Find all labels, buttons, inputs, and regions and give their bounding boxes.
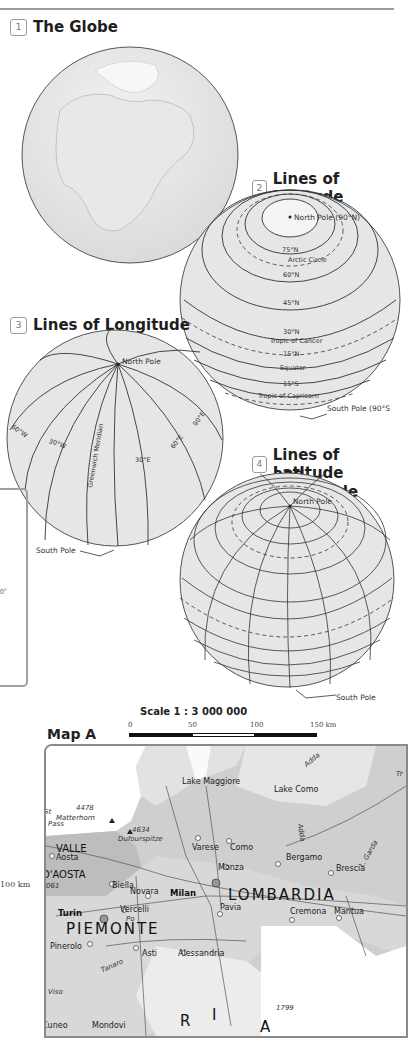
svg-text:R: R xyxy=(180,1012,192,1030)
svg-text:4478: 4478 xyxy=(76,804,94,812)
svg-text:A: A xyxy=(260,1018,272,1036)
svg-text:Pinerolo: Pinerolo xyxy=(50,942,82,951)
svg-text:I: I xyxy=(212,1006,218,1024)
svg-text:Varese: Varese xyxy=(192,843,219,852)
svg-text:Tr: Tr xyxy=(396,770,404,778)
svg-text:Pass: Pass xyxy=(48,820,64,828)
svg-text:Bergamo: Bergamo xyxy=(286,853,322,862)
svg-text:Milan: Milan xyxy=(170,888,196,898)
svg-text:LOMBARDIA: LOMBARDIA xyxy=(228,886,336,904)
svg-text:Dufourspitze: Dufourspitze xyxy=(118,835,163,843)
scale-tick: 50 xyxy=(188,721,197,729)
side-km-text: 100 km xyxy=(0,880,30,889)
svg-text:Novara: Novara xyxy=(130,887,159,896)
svg-text:Viso: Viso xyxy=(48,988,63,996)
svg-text:Lake Maggiore: Lake Maggiore xyxy=(182,777,240,786)
svg-text:Cremona: Cremona xyxy=(290,907,326,916)
svg-text:Asti: Asti xyxy=(142,949,157,958)
svg-text:St: St xyxy=(44,808,51,816)
scale-bar-segment xyxy=(192,733,256,737)
scale-tick: 100 xyxy=(250,721,263,729)
svg-text:PIEMONTE: PIEMONTE xyxy=(66,920,160,938)
svg-text:Pavia: Pavia xyxy=(220,903,241,912)
side-degree-text: 0° xyxy=(0,588,7,595)
svg-text:Mantua: Mantua xyxy=(334,907,364,916)
scale-tick: 0 xyxy=(128,721,132,729)
svg-text:Mondovi: Mondovi xyxy=(92,1021,126,1030)
svg-text:Aosta: Aosta xyxy=(56,853,79,862)
map-a-terrain: 4478 Matterhorn 4634 Dufourspitze St Pas… xyxy=(46,746,406,1036)
scale-tick: 150 km xyxy=(310,721,336,729)
svg-text:Turin: Turin xyxy=(58,908,82,918)
svg-text:Monza: Monza xyxy=(218,863,244,872)
svg-text:North Pole: North Pole xyxy=(293,497,332,506)
scale-bar-segment xyxy=(129,733,192,737)
svg-text:4634: 4634 xyxy=(132,826,150,834)
svg-text:Como: Como xyxy=(230,843,253,852)
svg-text:Lake Como: Lake Como xyxy=(274,785,318,794)
scale-title: Scale 1 : 3 000 000 xyxy=(140,706,247,717)
svg-text:1799: 1799 xyxy=(276,1004,294,1012)
svg-text:Alessandria: Alessandria xyxy=(178,949,225,958)
svg-text:061: 061 xyxy=(46,882,59,890)
svg-text:Cuneo: Cuneo xyxy=(44,1021,68,1030)
svg-text:D'AOSTA: D'AOSTA xyxy=(44,869,86,880)
map-a-frame: 4478 Matterhorn 4634 Dufourspitze St Pas… xyxy=(44,744,408,1038)
map-a-title: Map A xyxy=(47,726,96,742)
svg-text:Vercelli: Vercelli xyxy=(120,905,149,914)
scale-bar-segment xyxy=(254,733,317,737)
svg-text:South Pole: South Pole xyxy=(336,693,376,702)
